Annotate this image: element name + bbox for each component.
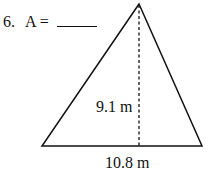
height-label: 9.1 m: [96, 98, 132, 116]
triangle-outline: [42, 4, 202, 146]
base-label: 10.8 m: [105, 154, 149, 172]
triangle-figure: [0, 0, 208, 177]
